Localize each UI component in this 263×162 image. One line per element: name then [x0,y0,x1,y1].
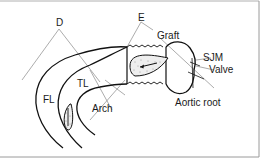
e-leader-lines [127,22,153,47]
d-leader-lines [22,29,100,82]
label-sjm: SJM [203,52,223,63]
label-graft: Graft [157,30,179,41]
label-valve: Valve [209,64,234,75]
graft-thrombus [130,55,168,76]
diagram-frame: D E Graft SJM Valve Aortic root Arch TL … [0,0,263,162]
label-fl: FL [43,94,55,105]
aortic-root [166,42,195,94]
label-tl: TL [77,78,89,89]
label-aortic-root: Aortic root [175,97,221,108]
label-arch: Arch [92,103,113,114]
aortic-dissection-diagram: D E Graft SJM Valve Aortic root Arch TL … [0,0,263,162]
label-e: E [138,12,145,23]
graft-top-suture [127,45,163,47]
label-d: D [56,17,63,28]
graft-bottom-suture [127,82,163,84]
valve-prosthesis [188,58,204,88]
